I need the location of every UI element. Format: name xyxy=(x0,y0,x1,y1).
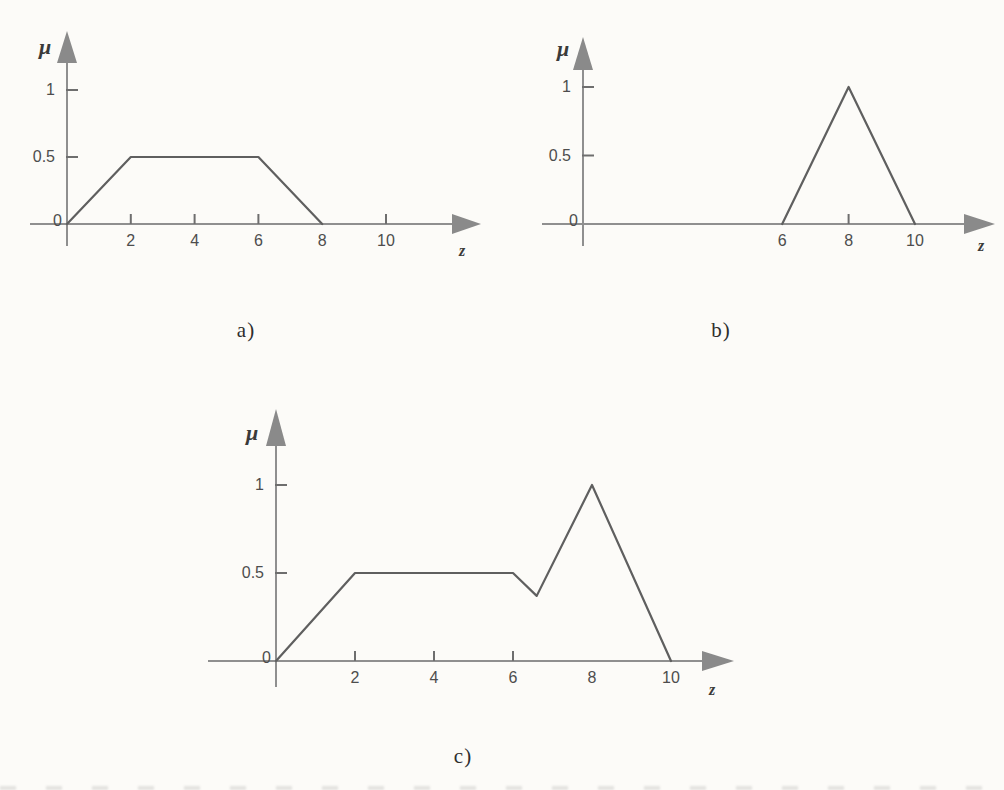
x-tick-label: 4 xyxy=(430,669,439,686)
y-axis-label: μ xyxy=(556,36,569,61)
chart-b: 681000.51μz xyxy=(542,36,995,254)
y-tick-label: 1 xyxy=(562,78,571,95)
x-tick-label: 4 xyxy=(190,232,199,249)
x-tick-label: 10 xyxy=(377,232,395,249)
y-axis-label: μ xyxy=(38,34,51,59)
x-tick-label: 8 xyxy=(844,232,853,249)
y-axis-arrow-icon xyxy=(573,37,593,70)
y-axis-arrow-icon xyxy=(266,409,286,446)
x-tick-label: 10 xyxy=(906,232,924,249)
membership-curve xyxy=(276,485,671,661)
y-tick-label: 1 xyxy=(255,476,264,493)
y-tick-label: 0.5 xyxy=(549,147,571,164)
x-axis-arrow-icon xyxy=(964,214,995,234)
scan-artifact xyxy=(0,786,1004,790)
y-tick-label: 1 xyxy=(46,81,55,98)
figure-page: 24681000.51μz681000.51μz24681000.51μz a)… xyxy=(0,0,1004,790)
membership-curve xyxy=(67,157,322,224)
x-tick-label: 2 xyxy=(351,669,360,686)
x-axis-arrow-icon xyxy=(702,651,734,671)
membership-curve xyxy=(782,87,915,224)
x-axis-label: z xyxy=(458,242,466,259)
y-tick-label: 0 xyxy=(262,649,271,666)
x-tick-label: 10 xyxy=(662,669,680,686)
y-tick-label: 0.5 xyxy=(242,564,264,581)
y-tick-label: 0 xyxy=(569,212,578,229)
y-axis-label: μ xyxy=(245,420,258,445)
subfigure-label-a: a) xyxy=(237,318,255,343)
x-axis-label: z xyxy=(977,237,985,254)
x-tick-label: 6 xyxy=(509,669,518,686)
figure-canvas: 24681000.51μz681000.51μz24681000.51μz xyxy=(0,0,1004,790)
y-tick-label: 0.5 xyxy=(33,148,55,165)
x-axis-label: z xyxy=(708,681,716,698)
x-tick-label: 6 xyxy=(254,232,263,249)
x-tick-label: 8 xyxy=(588,669,597,686)
y-tick-label: 0 xyxy=(53,212,62,229)
chart-c: 24681000.51μz xyxy=(208,409,734,698)
subfigure-label-b: b) xyxy=(711,318,731,343)
x-tick-label: 6 xyxy=(778,232,787,249)
chart-a: 24681000.51μz xyxy=(30,31,481,259)
subfigure-label-c: c) xyxy=(454,744,472,769)
x-tick-label: 8 xyxy=(318,232,327,249)
y-axis-arrow-icon xyxy=(57,31,77,63)
x-axis-arrow-icon xyxy=(452,214,481,234)
x-tick-label: 2 xyxy=(126,232,135,249)
